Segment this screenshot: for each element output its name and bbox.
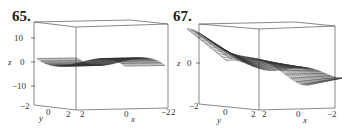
x-axis-label: x: [131, 115, 135, 124]
figure-67: 67. z 0 2 −2 0 y 2 2 0 x −2: [171, 0, 342, 128]
y-tick-neg2: −2: [189, 102, 199, 111]
x-tick-2: 2: [262, 110, 267, 119]
y-tick-neg2: −2: [20, 102, 30, 111]
x-tick-neg2: −2: [161, 108, 171, 117]
x-axis-label: x: [303, 116, 307, 125]
z-tick-0: 0: [20, 58, 25, 67]
y-tick-0: 0: [223, 108, 228, 117]
x-tick-neg2: −2: [327, 110, 337, 119]
y-axis-label: y: [217, 116, 221, 125]
y-tick-0: 0: [46, 108, 51, 117]
figure-65: 65. 10 z 0 −10 −2 0 y 2 2 0 x −2: [0, 0, 171, 128]
x-tick-0: 0: [124, 110, 129, 119]
x-tick-0: 0: [296, 110, 301, 119]
y-axis-label: y: [39, 114, 43, 123]
z-axis-label: z: [177, 59, 181, 68]
z-tick-neg10: −10: [12, 82, 26, 91]
z-axis-label: z: [8, 58, 12, 67]
z-tick-0: 0: [187, 59, 192, 68]
x-tick-2: 2: [80, 110, 85, 119]
y-tick-2: 2: [251, 110, 256, 119]
y-tick-2: 2: [66, 110, 71, 119]
left-edge-tick: 2: [171, 108, 176, 117]
z-tick-10: 10: [14, 34, 23, 43]
